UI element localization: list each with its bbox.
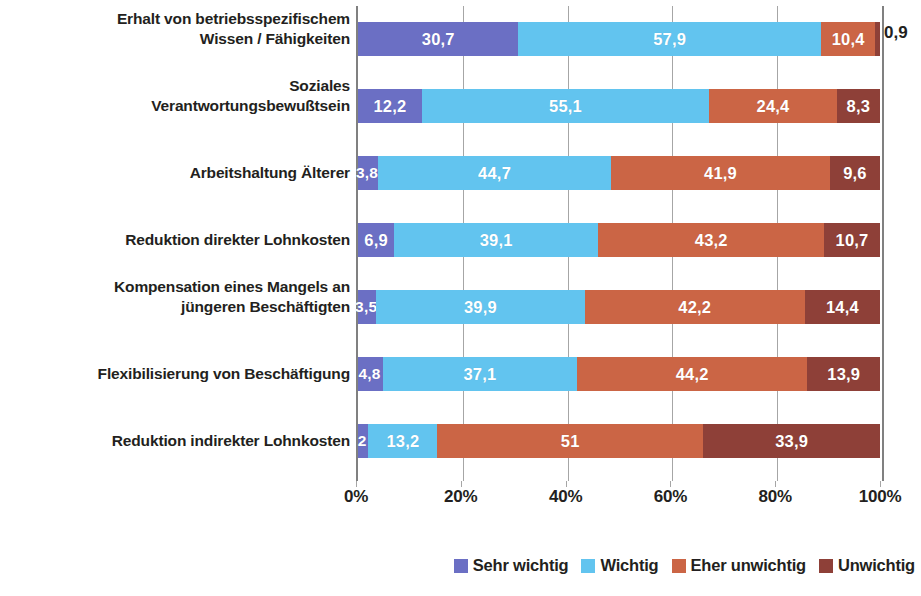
bar-segment: 8,3 [837, 89, 880, 123]
bar-value-label: 3,8 [356, 164, 378, 182]
category-label: Kompensation eines Mangels anjüngeren Be… [4, 280, 350, 314]
legend-label: Wichtig [600, 556, 658, 575]
x-tick-label: 60% [654, 487, 687, 507]
stacked-bar-chart: 30,757,910,412,255,124,48,33,844,741,99,… [0, 0, 921, 596]
bar-segment: 9,6 [830, 156, 880, 190]
bar-segment: 57,9 [518, 22, 821, 56]
bar-value-label: 9,6 [843, 164, 867, 183]
bar-segment: 39,1 [394, 223, 598, 257]
category-label: Reduktion direkter Lohnkosten [4, 223, 350, 257]
category-label-line: Flexibilisierung von Beschäftigung [98, 364, 350, 384]
bar-value-label: 3,5 [355, 298, 377, 316]
bar-segment: 33,9 [703, 424, 880, 458]
bar-value-label: 24,4 [757, 97, 790, 116]
x-axis: 0%20%40%60%80%100% [356, 487, 880, 515]
x-tick-label: 20% [444, 487, 477, 507]
bar-value-label: 2 [358, 432, 367, 450]
x-tick-label: 0% [344, 487, 368, 507]
bar-segment: 2 [358, 424, 368, 458]
category-label-line: Soziales [151, 76, 350, 96]
category-label: SozialesVerantwortungsbewußtsein [4, 79, 350, 113]
legend-swatch-icon [581, 559, 595, 573]
bar-segment: 39,9 [376, 290, 584, 324]
bar-value-label: 10,4 [832, 30, 865, 49]
bar-segment: 14,4 [805, 290, 880, 324]
x-tick-label: 40% [549, 487, 582, 507]
gridline-100 [882, 6, 884, 481]
bar-value-label: 13,2 [386, 432, 419, 451]
category-label-line: Reduktion direkter Lohnkosten [125, 230, 350, 250]
legend-label: Sehr wichtig [473, 556, 569, 575]
bar-value-label: 57,9 [653, 30, 686, 49]
bar-value-label: 44,2 [676, 365, 709, 384]
bar-value-label: 51 [561, 432, 580, 451]
bar-segment: 30,7 [358, 22, 518, 56]
bar-segment: 13,9 [807, 357, 880, 391]
bar-segment: 3,5 [358, 290, 376, 324]
bar-segment: 44,2 [577, 357, 808, 391]
legend-swatch-icon [454, 559, 468, 573]
category-label-line: Erhalt von betriebsspezifischem [117, 9, 350, 29]
category-label: Flexibilisierung von Beschäftigung [4, 357, 350, 391]
plot-area: 30,757,910,412,255,124,48,33,844,741,99,… [356, 6, 880, 481]
bar-segment: 42,2 [585, 290, 805, 324]
bar-segment: 4,8 [358, 357, 383, 391]
x-tick-label: 100% [859, 487, 902, 507]
bar-value-label: 6,9 [364, 231, 388, 250]
category-label-line: Kompensation eines Mangels an [114, 277, 350, 297]
bar-row: 4,837,144,213,9 [358, 357, 880, 391]
bar-row: 6,939,143,210,7 [358, 223, 880, 257]
bar-segment: 37,1 [383, 357, 577, 391]
bar-segment: 51 [437, 424, 703, 458]
bar-row: 12,255,124,48,3 [358, 89, 880, 123]
bar-row: 3,539,942,214,4 [358, 290, 880, 324]
bar-segment: 43,2 [598, 223, 824, 257]
bar-segment: 41,9 [611, 156, 830, 190]
category-label-line: Wissen / Fähigkeiten [117, 29, 350, 49]
bar-value-label: 8,3 [847, 97, 871, 116]
legend-swatch-icon [819, 559, 833, 573]
legend-item[interactable]: Eher unwichtig [672, 556, 806, 575]
bar-segment: 55,1 [422, 89, 710, 123]
bar-value-label: 10,7 [836, 231, 869, 250]
bar-segment: 3,8 [358, 156, 378, 190]
category-label: Reduktion indirekter Lohnkosten [4, 424, 350, 458]
bar-value-label: 30,7 [422, 30, 455, 49]
x-tick-label: 80% [758, 487, 791, 507]
bar-segment: 12,2 [358, 89, 422, 123]
bar-value-label: 43,2 [695, 231, 728, 250]
legend-label: Unwichtig [838, 556, 915, 575]
bar-value-label: 13,9 [827, 365, 860, 384]
category-label-line: Arbeitshaltung Älterer [190, 163, 350, 183]
bar-value-label: 55,1 [549, 97, 582, 116]
chart-legend: Sehr wichtigWichtigEher unwichtigUnwicht… [0, 556, 921, 575]
bar-value-label: 37,1 [463, 365, 496, 384]
bar-value-label: 39,9 [464, 298, 497, 317]
bar-segment: 24,4 [709, 89, 836, 123]
bar-value-label: 33,9 [775, 432, 808, 451]
plot-inner: 30,757,910,412,255,124,48,33,844,741,99,… [358, 6, 880, 481]
bar-value-label: 12,2 [373, 97, 406, 116]
bar-row: 30,757,910,4 [358, 22, 880, 56]
bar-segment: 10,7 [824, 223, 880, 257]
bar-value-label: 4,8 [358, 365, 380, 383]
bar-row: 213,25133,9 [358, 424, 880, 458]
legend-item[interactable]: Sehr wichtig [454, 556, 569, 575]
bar-value-label: 44,7 [478, 164, 511, 183]
category-label-line: Verantwortungsbewußtsein [151, 96, 350, 116]
bar-value-label: 14,4 [826, 298, 859, 317]
legend-swatch-icon [672, 559, 686, 573]
bar-segment: 44,7 [378, 156, 611, 190]
category-label: Erhalt von betriebsspezifischemWissen / … [4, 12, 350, 46]
category-label-line: Reduktion indirekter Lohnkosten [112, 431, 350, 451]
legend-label: Eher unwichtig [691, 556, 806, 575]
bar-value-label: 39,1 [480, 231, 513, 250]
legend-item[interactable]: Wichtig [581, 556, 658, 575]
legend-item[interactable]: Unwichtig [819, 556, 915, 575]
bar-segment: 6,9 [358, 223, 394, 257]
bar-value-label: 42,2 [678, 298, 711, 317]
bar-segment: 13,2 [368, 424, 437, 458]
bar-value-label-outside: 0,9 [884, 23, 908, 43]
bar-segment [875, 22, 880, 56]
bar-value-label: 41,9 [704, 164, 737, 183]
